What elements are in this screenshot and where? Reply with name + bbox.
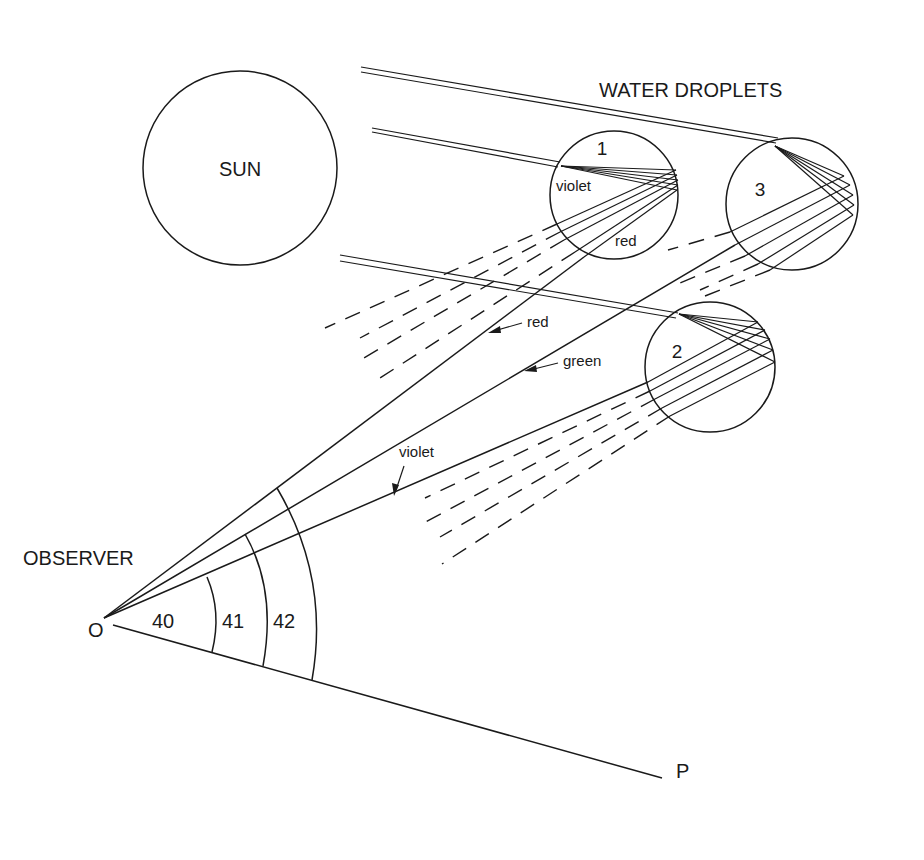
red-ray-label: red bbox=[527, 313, 549, 330]
droplet-2-dashed-rays bbox=[418, 391, 670, 564]
droplet-1-dashed-rays bbox=[325, 224, 575, 378]
incident-ray-1a bbox=[372, 128, 560, 162]
horizon-line-op bbox=[113, 625, 662, 778]
droplet-3-dashed-rays bbox=[668, 232, 770, 300]
observer: OBSERVER O P bbox=[23, 547, 689, 782]
incident-ray-3a bbox=[361, 67, 778, 138]
observer-rays bbox=[104, 245, 735, 618]
droplet-3-number: 3 bbox=[755, 179, 766, 200]
violet-ray-label: violet bbox=[399, 443, 435, 460]
observer-label: OBSERVER bbox=[23, 547, 134, 569]
rainbow-diagram: SUN WATER DROPLETS 1 violet red bbox=[0, 0, 924, 860]
sun: SUN bbox=[143, 71, 337, 265]
horizon-point-label: P bbox=[676, 760, 689, 782]
observer-point-label: O bbox=[88, 619, 104, 641]
droplet-2-number: 2 bbox=[672, 341, 683, 362]
droplet-1: 1 violet red bbox=[550, 131, 678, 259]
angle-40-label: 40 bbox=[152, 610, 174, 632]
droplet-1-circle bbox=[550, 131, 678, 259]
angle-42-label: 42 bbox=[273, 610, 295, 632]
droplet-1-red-label: red bbox=[615, 232, 637, 249]
ray-labels: red green violet bbox=[392, 313, 601, 496]
angle-arcs: 40 41 42 bbox=[152, 488, 317, 680]
arc-40 bbox=[207, 577, 216, 652]
droplet-2-internal-rays bbox=[648, 314, 775, 416]
droplet-2: 2 bbox=[645, 302, 775, 432]
droplet-3: 3 bbox=[726, 138, 858, 270]
water-droplets-title: WATER DROPLETS bbox=[599, 79, 782, 101]
angle-41-label: 41 bbox=[222, 610, 244, 632]
droplet-1-number: 1 bbox=[597, 138, 608, 159]
incident-ray-1b bbox=[372, 132, 558, 167]
incident-ray-2a bbox=[340, 255, 678, 313]
droplet-1-violet-label: violet bbox=[556, 177, 592, 194]
arc-42 bbox=[277, 488, 317, 680]
green-ray bbox=[104, 245, 735, 618]
red-ray bbox=[104, 257, 584, 618]
violet-ray bbox=[104, 382, 648, 618]
arc-41 bbox=[245, 534, 267, 666]
sun-label: SUN bbox=[219, 158, 261, 180]
violet-arrow-icon bbox=[392, 483, 399, 496]
droplet-3-internal-rays bbox=[730, 146, 854, 270]
green-ray-label: green bbox=[563, 352, 601, 369]
